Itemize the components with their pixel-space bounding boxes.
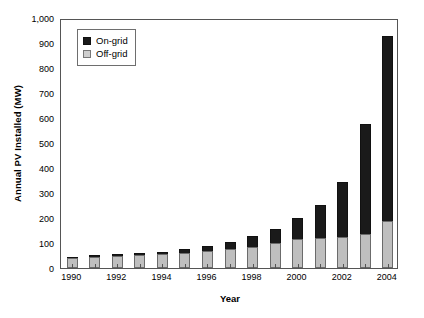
x-axis-tick-label: 2002	[320, 272, 364, 282]
bar-2003	[360, 124, 371, 268]
x-axis-tick-label: 1994	[139, 272, 183, 282]
bar-2002	[337, 182, 348, 268]
y-axis-tick-label: 600	[14, 114, 54, 124]
bar-segment-on-grid	[270, 229, 281, 244]
bar-segment-on-grid	[315, 205, 326, 238]
bar-1999	[270, 229, 281, 269]
x-axis-tick-label: 1996	[184, 272, 228, 282]
chart-legend: On-grid Off-grid	[77, 29, 136, 66]
x-axis-tick-mark	[207, 264, 208, 268]
x-axis-tick-mark	[388, 264, 389, 268]
y-axis-tick-label: 100	[14, 239, 54, 249]
legend-swatch-on-grid	[83, 37, 91, 45]
x-axis-tick-mark	[140, 264, 141, 268]
x-axis-tick-mark	[365, 264, 366, 268]
y-axis-tick-label: 500	[14, 139, 54, 149]
bar-segment-on-grid	[225, 242, 236, 249]
x-axis-tick-mark	[230, 264, 231, 268]
x-axis-tick-label: 1998	[230, 272, 274, 282]
bar-segment-on-grid	[382, 36, 393, 221]
bar-segment-off-grid	[360, 234, 371, 268]
x-axis-tick-label: 1992	[94, 272, 138, 282]
legend-label-on-grid: On-grid	[96, 35, 128, 47]
legend-item-off-grid: Off-grid	[83, 48, 128, 60]
y-axis-tick-label: 0	[14, 264, 54, 274]
x-axis-tick-label: 1990	[49, 272, 93, 282]
y-axis-tick-label: 700	[14, 89, 54, 99]
legend-swatch-off-grid	[83, 50, 91, 58]
y-axis-tick-label: 1,000	[14, 14, 54, 24]
x-axis-tick-label: 2004	[365, 272, 409, 282]
y-axis-tick-label: 800	[14, 64, 54, 74]
bar-2001	[315, 205, 326, 268]
x-axis-tick-mark	[253, 264, 254, 268]
bar-segment-on-grid	[360, 124, 371, 234]
y-axis-tick-label: 400	[14, 164, 54, 174]
bar-segment-on-grid	[337, 182, 348, 237]
bar-segment-off-grid	[382, 221, 393, 269]
legend-label-off-grid: Off-grid	[96, 48, 128, 60]
y-axis-tick-label: 900	[14, 39, 54, 49]
x-axis-tick-mark	[275, 264, 276, 268]
x-axis-tick-label: 2000	[275, 272, 319, 282]
x-axis-tick-mark	[320, 264, 321, 268]
plot-area: On-grid Off-grid	[60, 19, 398, 269]
chart-figure: Annual PV Installed (MW) Year 0100200300…	[0, 0, 424, 318]
x-axis-tick-mark	[185, 264, 186, 268]
bar-2000	[292, 218, 303, 268]
x-axis-tick-mark	[95, 264, 96, 268]
x-axis-tick-mark	[72, 264, 73, 268]
x-axis-tick-mark	[343, 264, 344, 268]
x-axis-title: Year	[60, 293, 400, 304]
legend-item-on-grid: On-grid	[83, 35, 128, 47]
x-axis-tick-mark	[117, 264, 118, 268]
x-axis-tick-mark	[298, 264, 299, 268]
bar-2004	[382, 36, 393, 269]
x-axis-tick-mark	[162, 264, 163, 268]
y-axis-tick-label: 300	[14, 189, 54, 199]
bar-segment-on-grid	[292, 218, 303, 239]
bar-segment-on-grid	[247, 236, 258, 247]
y-axis-tick-label: 200	[14, 214, 54, 224]
